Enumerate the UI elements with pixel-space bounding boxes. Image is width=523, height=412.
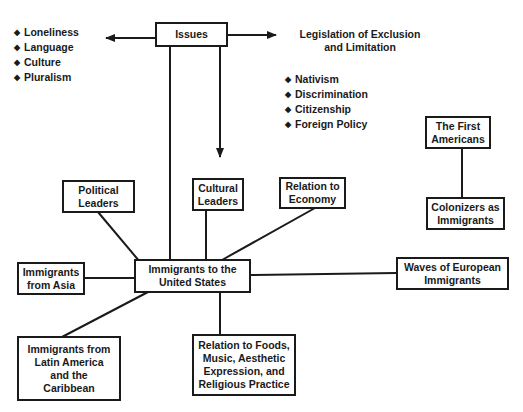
diamond-bullet-icon: ◆ xyxy=(14,70,20,85)
central-node[interactable]: Immigrants to the United States xyxy=(134,259,251,293)
legislation-heading: Legislation of Exclusion and Limitation xyxy=(290,28,430,54)
latin-america-node[interactable]: Immigrants from Latin America and the Ca… xyxy=(17,336,121,401)
diamond-bullet-icon: ◆ xyxy=(285,87,291,102)
foods-node[interactable]: Relation to Foods, Music, Aesthetic Expr… xyxy=(192,334,296,396)
asia-node[interactable]: Immigrants from Asia xyxy=(17,262,85,295)
diamond-bullet-icon: ◆ xyxy=(14,55,20,70)
bullet-item: ◆Loneliness xyxy=(14,25,79,40)
legislation-bullet-list: ◆Nativism ◆Discrimination ◆Citizenship ◆… xyxy=(285,72,368,132)
diamond-bullet-icon: ◆ xyxy=(14,25,20,40)
political-leaders-node[interactable]: Political Leaders xyxy=(62,180,135,213)
diamond-bullet-icon: ◆ xyxy=(285,72,291,87)
european-node[interactable]: Waves of European Immigrants xyxy=(396,257,509,290)
diamond-bullet-icon: ◆ xyxy=(285,117,291,132)
diamond-bullet-icon: ◆ xyxy=(285,102,291,117)
diamond-bullet-icon: ◆ xyxy=(14,40,20,55)
bullet-item: ◆Citizenship xyxy=(285,102,368,117)
issues-node[interactable]: Issues xyxy=(155,22,228,47)
bullet-item: ◆Nativism xyxy=(285,72,368,87)
economy-node[interactable]: Relation to Economy xyxy=(279,177,346,209)
bullet-item: ◆Foreign Policy xyxy=(285,117,368,132)
bullet-item: ◆Discrimination xyxy=(285,87,368,102)
bullet-item: ◆Pluralism xyxy=(14,70,79,85)
first-americans-node[interactable]: The First Americans xyxy=(425,116,491,149)
colonizers-node[interactable]: Colonizers as Immigrants xyxy=(426,197,505,230)
bullet-item: ◆Culture xyxy=(14,55,79,70)
issues-bullet-list: ◆Loneliness ◆Language ◆Culture ◆Pluralis… xyxy=(14,25,79,85)
bullet-item: ◆Language xyxy=(14,40,79,55)
cultural-leaders-node[interactable]: Cultural Leaders xyxy=(192,178,244,211)
